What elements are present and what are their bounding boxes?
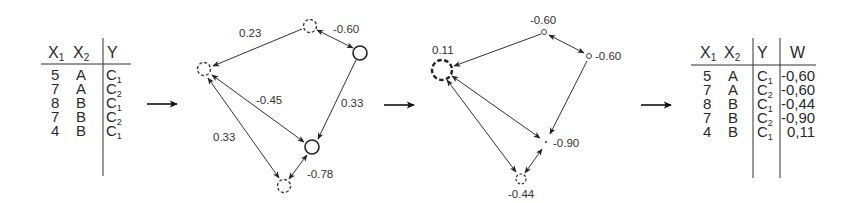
node-dashed-left <box>198 63 211 76</box>
graph-2: 0.11 -0.60 -0.60 -0.90 -0.44 <box>432 14 621 200</box>
edge-label: 0.33 <box>341 97 363 109</box>
edge-n1-n5 <box>208 78 279 178</box>
header-x1: X1 <box>700 44 717 63</box>
header-x2: X2 <box>724 44 741 63</box>
header-w: W <box>790 44 806 61</box>
edge-label: 0.33 <box>213 131 235 143</box>
edge-m1-m5 <box>447 80 516 172</box>
node-dashed-top <box>304 20 317 33</box>
output-table: X1 X2 Y W 5 A C1 -0,60 7 A C2 -0,60 8 B … <box>691 38 816 178</box>
edge-m1-m4 <box>452 76 540 138</box>
input-table: X1 X2 Y 5 A C1 7 A C2 8 B C1 7 B C2 4 <box>41 38 131 176</box>
edge-m2-m1 <box>454 34 541 66</box>
edge-m3-m4 <box>550 61 587 134</box>
node-tiny-top <box>542 30 547 35</box>
node-weight-label: -0.44 <box>508 188 535 200</box>
svg-text:0,11: 0,11 <box>787 123 815 140</box>
header-x2: X2 <box>73 44 90 63</box>
node-tiny-right <box>587 54 592 59</box>
node-solid-right <box>353 46 367 60</box>
svg-text:B: B <box>728 123 738 140</box>
edge-label: -0.60 <box>333 23 359 35</box>
table-row: 4 B C1 0,11 <box>703 123 815 142</box>
header-y: Y <box>757 44 768 61</box>
node-weight-label: 0.11 <box>432 44 454 56</box>
node-point <box>545 141 547 143</box>
node-weight-label: -0.60 <box>595 50 621 62</box>
svg-text:4: 4 <box>51 122 59 139</box>
table-row: 4 B C1 <box>51 122 122 141</box>
node-dashed-small <box>516 174 526 184</box>
edge-label: 0.23 <box>239 27 261 39</box>
node-dashed-bottom <box>278 180 291 193</box>
svg-text:B: B <box>76 122 86 139</box>
header-y: Y <box>107 44 118 61</box>
node-weight-label: -0.60 <box>530 14 556 26</box>
edge-label: -0.78 <box>307 168 333 180</box>
node-solid-bottom <box>305 140 319 154</box>
svg-text:4: 4 <box>703 123 711 140</box>
pipeline-diagram: X1 X2 Y 5 A C1 7 A C2 8 B C1 7 B C2 4 <box>0 0 861 203</box>
edge-label: -0.45 <box>256 94 282 106</box>
edge-m2-m3 <box>549 35 584 53</box>
header-x1: X1 <box>48 44 65 63</box>
node-dashed-large <box>432 60 452 80</box>
edge-n5-n4 <box>289 155 307 179</box>
edge-m5-m4 <box>525 149 542 173</box>
graph-1: 0.23 -0.60 0.33 -0.45 0.33 -0.78 <box>198 20 368 193</box>
node-weight-label: -0.90 <box>553 137 579 149</box>
